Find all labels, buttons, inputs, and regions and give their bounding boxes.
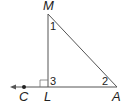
angle-1-label: 1	[50, 20, 56, 32]
label-a: A	[111, 89, 121, 104]
right-angle-mark-icon	[40, 80, 48, 87]
arrowhead-icon	[10, 85, 16, 90]
angle-3-label: 3	[50, 75, 56, 87]
label-m: M	[43, 0, 54, 13]
angle-2-label: 2	[102, 75, 108, 87]
label-l: L	[44, 89, 51, 104]
label-c: C	[19, 89, 29, 104]
triangle-diagram: M L A C 1 2 3	[0, 0, 131, 105]
